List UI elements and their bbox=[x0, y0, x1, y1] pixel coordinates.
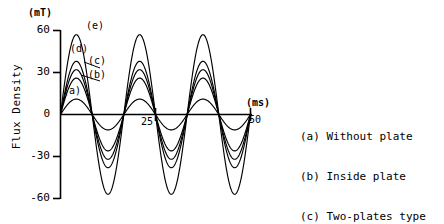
legend: (a) Without plate (b) Inside plate (c) T… bbox=[300, 103, 444, 224]
figure-root: (mT) 60 30 0 -30 -60 Flux Density 25 50 … bbox=[0, 0, 444, 224]
x-tick-label-50: 50 bbox=[249, 114, 261, 125]
y-tick-label-minus60: -60 bbox=[8, 191, 50, 204]
curve-label-a: (a) bbox=[63, 85, 81, 96]
x-axis-unit: (ms) bbox=[246, 97, 270, 108]
legend-item-c: (c) Two-plates type bbox=[300, 210, 444, 223]
curve-label-d: (d) bbox=[70, 43, 88, 54]
y-tick-label-60: 60 bbox=[8, 23, 50, 36]
curve-label-c: (c) bbox=[88, 55, 106, 66]
legend-item-a: (a) Without plate bbox=[300, 130, 444, 143]
y-axis-title: Flux Density bbox=[10, 52, 23, 162]
x-tick-label-25: 25 bbox=[141, 116, 153, 127]
curve-label-b: (b) bbox=[88, 69, 106, 80]
chart-plot-area: (mT) 60 30 0 -30 -60 Flux Density 25 50 … bbox=[0, 0, 290, 224]
curve-label-e: (e) bbox=[86, 20, 104, 31]
legend-item-b: (b) Inside plate bbox=[300, 170, 444, 183]
y-axis-unit: (mT) bbox=[28, 7, 52, 18]
